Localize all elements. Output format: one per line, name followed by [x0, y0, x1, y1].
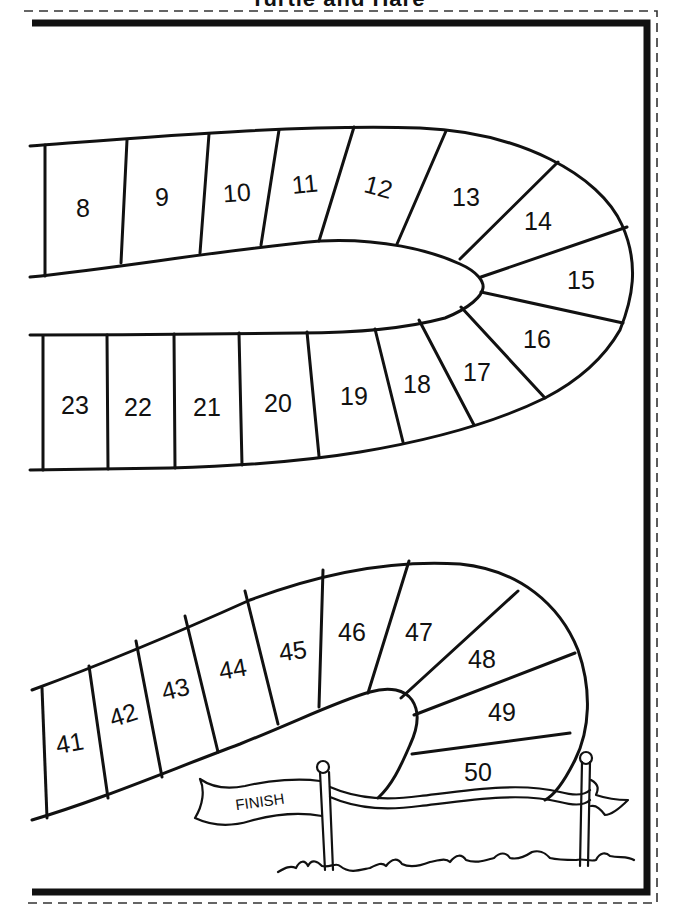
space-50: 50 — [464, 758, 492, 786]
space-divider — [89, 666, 108, 798]
space-9: 9 — [155, 183, 169, 211]
finish-label: FINISH — [234, 790, 285, 814]
space-22: 22 — [124, 393, 152, 421]
space-divider — [307, 332, 319, 456]
finish-pole-knob — [317, 761, 329, 773]
space-divider — [174, 334, 175, 468]
space-15: 15 — [567, 266, 595, 294]
space-46: 46 — [338, 618, 366, 646]
space-20: 20 — [264, 389, 292, 417]
space-12: 12 — [362, 170, 396, 204]
space-divider — [200, 134, 209, 253]
space-41: 41 — [53, 726, 85, 758]
upper-track — [30, 127, 633, 470]
space-divider — [368, 561, 409, 693]
dashed-cut-border — [24, 11, 657, 903]
space-14: 14 — [524, 207, 552, 235]
space-divider — [319, 127, 354, 241]
space-8: 8 — [76, 194, 90, 222]
space-42: 42 — [106, 697, 141, 732]
space-divider — [136, 641, 162, 777]
space-11: 11 — [290, 168, 319, 199]
space-21: 21 — [193, 393, 221, 421]
board-frame — [32, 23, 647, 892]
space-49: 49 — [488, 698, 516, 726]
space-divider — [481, 227, 627, 277]
lower-track-left-end — [42, 688, 47, 818]
space-13: 13 — [452, 183, 480, 211]
right-pennant — [591, 780, 628, 815]
finish-ribbon — [330, 797, 590, 808]
space-divider — [121, 140, 127, 263]
space-16: 16 — [523, 325, 551, 353]
space-divider — [261, 130, 279, 245]
finish-pole-knob — [580, 752, 592, 764]
space-44: 44 — [216, 652, 248, 684]
space-19: 19 — [340, 382, 368, 410]
space-numbers: 8 9 10 11 12 13 14 15 16 17 18 19 20 21 … — [53, 168, 594, 785]
upper-track-inner-edge — [30, 241, 483, 335]
space-10: 10 — [222, 178, 252, 208]
space-18: 18 — [403, 370, 431, 398]
space-divider — [412, 733, 570, 754]
space-divider — [245, 591, 278, 724]
space-47: 47 — [405, 618, 433, 646]
space-45: 45 — [277, 635, 308, 667]
space-43: 43 — [159, 672, 193, 706]
space-divider — [107, 335, 108, 469]
space-divider — [375, 329, 403, 442]
space-23: 23 — [61, 391, 89, 419]
lower-track — [32, 561, 587, 820]
finish-pole-right — [588, 762, 590, 866]
lower-track-inner-edge — [32, 689, 417, 820]
space-17: 17 — [463, 358, 491, 386]
space-divider — [481, 292, 623, 323]
space-divider — [397, 131, 446, 244]
space-divider — [239, 333, 242, 465]
space-divider — [319, 570, 323, 707]
finish-pole-right — [580, 762, 582, 866]
game-board: FINISH 8 9 10 11 12 13 14 15 16 17 18 19… — [0, 0, 676, 919]
space-48: 48 — [468, 645, 496, 673]
finish-pole-left — [320, 772, 325, 870]
space-divider — [185, 616, 218, 752]
